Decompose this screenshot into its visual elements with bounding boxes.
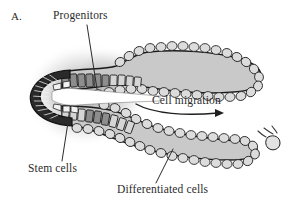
figure-panel: A. Progenitors Cell migration Stem cells…: [0, 0, 297, 205]
label-cell-migration: Cell migration: [152, 95, 221, 107]
label-progenitors: Progenitors: [53, 10, 108, 22]
panel-letter: A.: [11, 11, 22, 22]
shed-cell-group: [258, 126, 280, 150]
shed-motion-lines: [258, 126, 277, 137]
label-stem-cells: Stem cells: [28, 163, 77, 175]
label-differentiated-cells: Differentiated cells: [117, 184, 208, 196]
shed-cell: [266, 136, 280, 150]
